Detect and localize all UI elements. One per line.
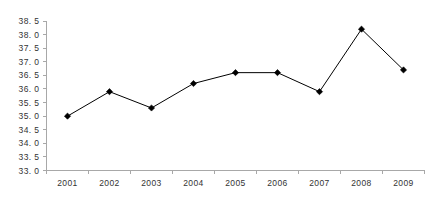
y-tick-label: 37. 0	[19, 57, 40, 67]
x-tick-label: 2005	[225, 178, 246, 188]
x-tick-label: 2003	[141, 178, 162, 188]
y-tick-label: 36. 5	[19, 70, 40, 80]
plot-background	[0, 0, 431, 206]
y-tick-label: 35. 0	[19, 111, 40, 121]
y-tick-label: 38. 0	[19, 30, 40, 40]
y-tick-label: 37. 5	[19, 43, 40, 53]
x-tick-label: 2006	[267, 178, 288, 188]
x-tick-label: 2004	[183, 178, 204, 188]
y-tick-label: 33. 0	[19, 166, 40, 176]
y-tick-label: 38. 5	[19, 16, 40, 26]
x-tick-label: 2002	[99, 178, 120, 188]
x-tick-label: 2001	[57, 178, 78, 188]
y-tick-label: 35. 5	[19, 98, 40, 108]
y-tick-label: 33. 5	[19, 152, 40, 162]
y-tick-label: 36. 0	[19, 84, 40, 94]
x-tick-label: 2009	[393, 178, 414, 188]
chart-canvas: 33. 033. 534. 034. 535. 035. 536. 036. 5…	[0, 0, 431, 206]
x-tick-label: 2007	[309, 178, 330, 188]
y-tick-label: 34. 0	[19, 138, 40, 148]
y-tick-label: 34. 5	[19, 125, 40, 135]
x-tick-label: 2008	[351, 178, 372, 188]
line-chart: 33. 033. 534. 034. 535. 035. 536. 036. 5…	[0, 0, 431, 206]
